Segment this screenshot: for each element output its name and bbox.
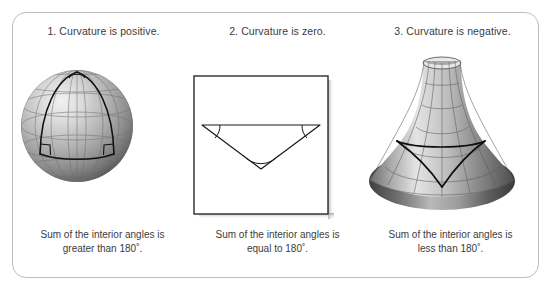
panel-caption-positive: Sum of the interior angles is greater th… [19,228,186,255]
panel-title-positive: 1. Curvature is positive. [15,25,190,38]
flat-square-illustration [190,47,365,219]
caption-line-2: less than 180˚. [418,243,484,254]
panel-curvature-negative: 3. Curvature is negative. [363,13,538,279]
figure-frame: 1. Curvature is positive. [12,12,539,278]
caption-line-1: Sum of the interior angles is [216,229,340,240]
panel-caption-zero: Sum of the interior angles is equal to 1… [194,228,361,255]
pseudosphere-illustration [363,47,538,219]
caption-line-2: greater than 180˚. [63,243,143,254]
plane-square [194,76,328,214]
panel-title-negative: 3. Curvature is negative. [363,25,538,38]
panel-curvature-positive: 1. Curvature is positive. [15,13,190,279]
caption-line-2: equal to 180˚. [247,243,308,254]
panel-caption-negative: Sum of the interior angles is less than … [367,228,534,255]
plane-shadow-right [328,80,334,219]
sphere-illustration [15,47,190,219]
panel-title-zero: 2. Curvature is zero. [190,25,365,38]
caption-line-1: Sum of the interior angles is [389,229,513,240]
caption-line-1: Sum of the interior angles is [41,229,165,240]
panel-curvature-zero: 2. Curvature is zero. [190,13,365,279]
